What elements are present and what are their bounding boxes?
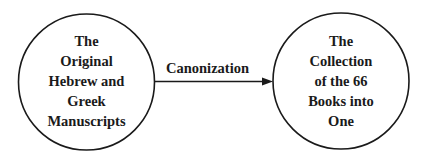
source-line-3: Hebrew and [49,71,125,91]
target-line-1: The [329,31,353,51]
source-line-4: Greek [67,91,105,111]
source-node-label: The Original Hebrew and Greek Manuscript… [26,30,147,132]
source-line-1: The [74,31,98,51]
target-line-2: Collection [310,51,373,71]
arrowhead-icon [262,78,273,86]
target-line-4: Books into [308,91,374,111]
edge-label-canonization: Canonization [166,60,249,77]
target-line-3: of the 66 [314,71,367,91]
target-line-5: One [328,111,354,131]
canonization-diagram: The Original Hebrew and Greek Manuscript… [0,0,427,164]
target-node-label: The Collection of the 66 Books into One [281,30,401,132]
source-line-2: Original [60,51,112,71]
source-line-5: Manuscripts [47,111,125,131]
